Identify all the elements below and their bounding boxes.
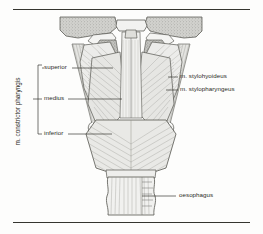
label-constrictor-pharyngis: m. constrictor pharyngis (14, 64, 21, 160)
label-m-stylohyoideus: m. stylohyoideus (180, 73, 227, 79)
label-oesophagus: oesophagus (179, 192, 213, 198)
label-medius: medius (44, 95, 64, 101)
label-m-stylopharyngeus: m. stylopharyngeus (180, 86, 235, 92)
label-superior: superior (44, 64, 67, 70)
figure-page: m. constrictor pharyngis superior medius… (0, 0, 263, 234)
annotation-leader-lines (0, 0, 263, 234)
label-inferior: inferior (44, 130, 63, 136)
